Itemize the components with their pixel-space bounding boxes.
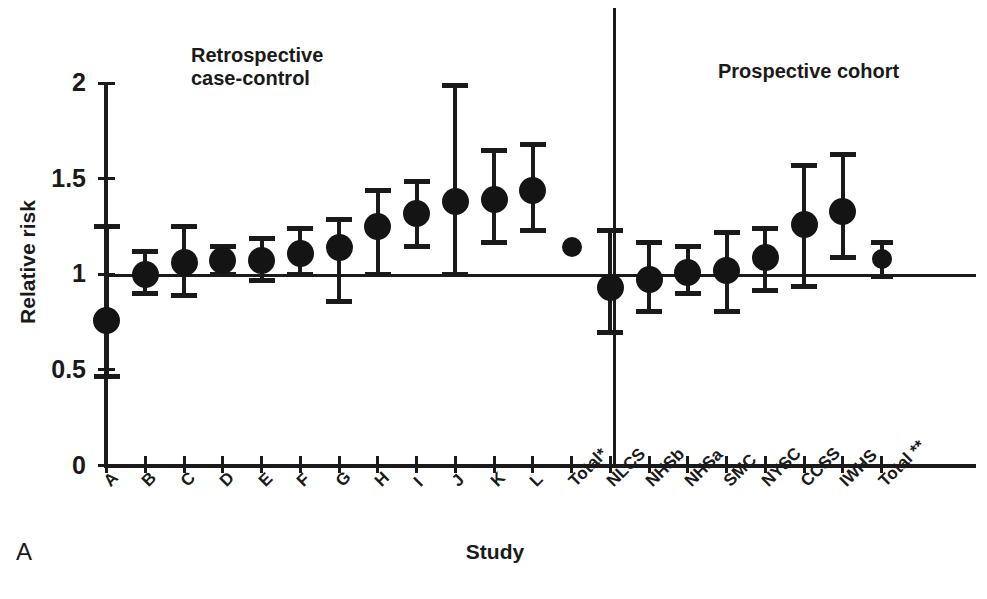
data-point-marker[interactable] — [481, 186, 508, 213]
x-tick-i — [415, 456, 418, 473]
error-bar-cap-lower — [597, 330, 623, 335]
x-tick-label: B — [138, 468, 161, 491]
error-bar-cap-upper — [675, 244, 701, 249]
data-point-marker[interactable] — [519, 177, 546, 204]
error-bar-cap-lower — [132, 291, 158, 296]
error-bar-cap-lower — [404, 244, 430, 249]
error-bar-cap-lower — [830, 255, 856, 260]
error-bar-cap-upper — [94, 224, 120, 229]
data-point-marker[interactable] — [442, 188, 469, 215]
data-point-marker[interactable] — [93, 307, 120, 334]
data-point-marker[interactable] — [674, 259, 701, 286]
data-point-marker[interactable] — [562, 237, 582, 257]
error-bar-cap-lower — [171, 293, 197, 298]
x-tick-label: L — [526, 470, 547, 491]
error-bar-cap-lower — [752, 288, 778, 293]
y-axis-title: Relative risk — [16, 162, 40, 362]
data-point-marker[interactable] — [209, 247, 236, 274]
x-tick-label: G — [332, 468, 356, 492]
y-tick-label: 0.5 — [40, 357, 86, 382]
error-bar-cap-upper — [714, 230, 740, 235]
x-tick-label: J — [448, 470, 469, 491]
forest-plot-figure: Retrospective case-control Prospective c… — [0, 0, 987, 599]
error-bar-cap-lower — [714, 309, 740, 314]
x-tick-label: C — [177, 468, 200, 491]
data-point-marker[interactable] — [171, 249, 198, 276]
x-tick-label: I — [410, 474, 427, 491]
group-divider-line — [613, 8, 616, 468]
data-point-marker[interactable] — [872, 249, 892, 269]
panel-label: A — [16, 538, 32, 566]
error-bar-cap-upper — [597, 228, 623, 233]
error-bar-cap-lower — [94, 374, 120, 379]
y-tick-label: 0 — [40, 453, 86, 478]
data-point-marker[interactable] — [829, 198, 856, 225]
error-bar-cap-upper — [132, 249, 158, 254]
error-bar-cap-upper — [871, 240, 893, 245]
error-bar-cap-lower — [675, 291, 701, 296]
data-point-marker[interactable] — [752, 244, 779, 271]
x-axis-title: Study — [440, 540, 550, 564]
y-tick-label: 2 — [40, 70, 86, 95]
error-bar-cap-upper — [442, 83, 468, 88]
y-tick-label: 1.5 — [40, 166, 86, 191]
data-point-marker[interactable] — [364, 213, 391, 240]
error-bar-cap-upper — [287, 226, 313, 231]
error-bar-cap-lower — [442, 272, 468, 277]
data-point-marker[interactable] — [326, 234, 353, 261]
error-bar-cap-upper — [365, 188, 391, 193]
error-bar-whisker — [105, 226, 109, 375]
y-tick-label: 1 — [40, 261, 86, 286]
error-bar-cap-lower — [791, 284, 817, 289]
data-point-marker[interactable] — [791, 211, 818, 238]
error-bar-cap-upper — [752, 226, 778, 231]
data-point-marker[interactable] — [597, 274, 624, 301]
error-bar-cap-lower — [326, 299, 352, 304]
error-bar-cap-upper — [830, 152, 856, 157]
x-tick-label: F — [293, 470, 314, 491]
data-point-marker[interactable] — [403, 200, 430, 227]
data-point-marker[interactable] — [287, 240, 314, 267]
error-bar-cap-upper — [481, 148, 507, 153]
error-bar-cap-upper — [171, 224, 197, 229]
error-bar-cap-upper — [520, 142, 546, 147]
error-bar-cap-lower — [481, 240, 507, 245]
error-bar-cap-lower — [365, 272, 391, 277]
error-bar-cap-lower — [249, 278, 275, 283]
y-tick-2 — [98, 82, 115, 85]
group-title-prospective-cohort: Prospective cohort — [718, 60, 899, 83]
error-bar-cap-lower — [871, 274, 893, 279]
data-point-marker[interactable] — [713, 257, 740, 284]
error-bar-cap-lower — [520, 228, 546, 233]
error-bar-cap-lower — [636, 309, 662, 314]
y-tick-1.5 — [98, 177, 115, 180]
data-point-marker[interactable] — [636, 266, 663, 293]
error-bar-whisker — [453, 85, 457, 274]
error-bar-cap-upper — [404, 179, 430, 184]
x-tick-label: H — [371, 468, 394, 491]
data-point-marker[interactable] — [132, 261, 159, 288]
x-tick-label: D — [216, 468, 239, 491]
error-bar-cap-upper — [791, 163, 817, 168]
x-tick-label: E — [255, 469, 277, 491]
x-tick-label: K — [487, 468, 510, 491]
x-tick-label: A — [100, 468, 123, 491]
error-bar-cap-lower — [287, 272, 313, 277]
error-bar-cap-upper — [326, 217, 352, 222]
error-bar-cap-upper — [636, 240, 662, 245]
data-point-marker[interactable] — [248, 247, 275, 274]
error-bar-cap-upper — [249, 236, 275, 241]
group-title-retrospective-case-control: Retrospective case-control — [191, 44, 323, 90]
